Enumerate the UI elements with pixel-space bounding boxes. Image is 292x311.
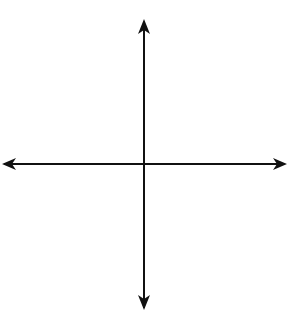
graph: [0, 0, 292, 311]
axes: [2, 19, 287, 310]
